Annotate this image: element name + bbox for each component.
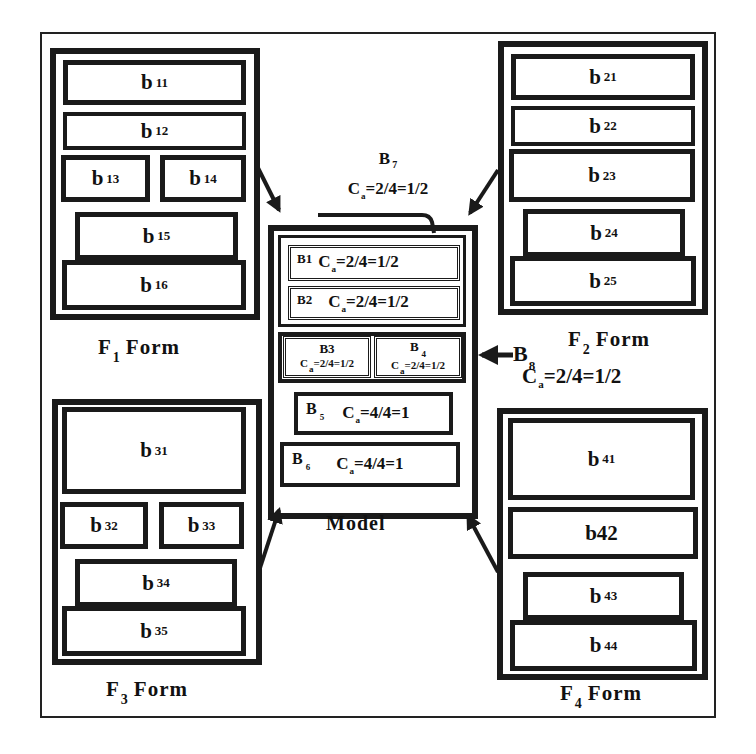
arrow-b7-pointer <box>318 215 434 233</box>
arrow-f3-to-model <box>260 510 279 568</box>
arrows-layer <box>0 0 756 754</box>
arrow-f2-to-model <box>470 170 498 213</box>
arrow-f1-to-model <box>258 168 279 210</box>
arrow-f4-to-model <box>468 516 498 572</box>
